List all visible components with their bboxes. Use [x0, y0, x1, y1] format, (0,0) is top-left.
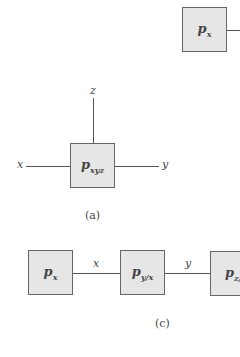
caption-a: (a) — [85, 209, 100, 222]
edge-line — [227, 30, 240, 31]
node-label: py/x — [132, 264, 153, 282]
edge-label-z: z — [90, 84, 96, 97]
edge-line-x — [26, 166, 70, 167]
edge-label-x: x — [17, 158, 23, 171]
edge-label-y: y — [185, 257, 191, 270]
node-label: px — [198, 21, 212, 39]
edge-label-x: x — [93, 257, 99, 270]
node-label: pz/ — [225, 265, 240, 283]
node-py-given-x: py/x — [120, 250, 165, 295]
edge-line-x — [73, 273, 120, 274]
node-pz-given-partial: pz/ — [210, 251, 240, 296]
caption-c: (c) — [155, 317, 170, 330]
edge-line-y — [165, 273, 210, 274]
edge-line-y — [115, 166, 159, 167]
edge-label-y: y — [162, 158, 168, 171]
node-label: px — [44, 264, 58, 282]
node-px-top: px — [182, 7, 227, 52]
node-px: px — [28, 250, 73, 295]
edge-line-z — [93, 98, 94, 143]
node-pxyz: pxyz — [70, 143, 115, 188]
node-label: pxyz — [81, 157, 104, 175]
